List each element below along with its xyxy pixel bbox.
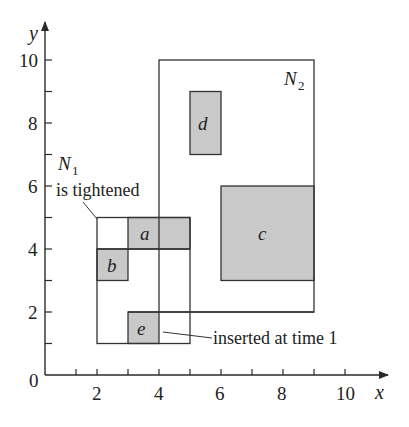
rtree-diagram: a b c d e N 2 N 1 is tightened inserted … — [0, 0, 409, 427]
rect-label-a: a — [140, 223, 150, 244]
x-tick-label: 6 — [215, 383, 225, 404]
svg-text:2: 2 — [298, 78, 305, 93]
y-tick-label: 2 — [28, 302, 38, 323]
svg-text:1: 1 — [72, 163, 79, 178]
svg-text:N: N — [283, 68, 298, 89]
e-inserted-note: inserted at time 1 — [213, 328, 337, 348]
x-axis-label: x — [374, 381, 384, 403]
x-tick-label: 4 — [154, 383, 164, 404]
e-note-leader — [163, 332, 212, 338]
n1-tightened-note: is tightened — [56, 180, 140, 200]
y-axis-label: y — [27, 22, 38, 45]
y-tick-label: 6 — [28, 176, 38, 197]
node-label-n1: N 1 — [57, 153, 79, 178]
rect-label-d: d — [198, 113, 208, 134]
x-tick-label: 2 — [92, 383, 102, 404]
svg-text:N: N — [57, 153, 72, 174]
rect-label-e: e — [137, 318, 145, 339]
origin-label: 0 — [29, 370, 39, 391]
x-tick-label: 8 — [277, 383, 287, 404]
rect-label-c: c — [258, 223, 267, 244]
y-tick-label: 8 — [28, 113, 38, 134]
x-tick-label: 10 — [336, 383, 355, 404]
rect-c — [221, 186, 314, 281]
rect-label-b: b — [107, 255, 117, 276]
n1-note-leader — [83, 202, 97, 219]
x-ticks — [76, 369, 345, 375]
node-label-n2: N 2 — [283, 68, 305, 93]
y-tick-label: 4 — [28, 239, 38, 260]
y-ticks — [45, 60, 52, 344]
y-tick-label: 10 — [19, 50, 38, 71]
